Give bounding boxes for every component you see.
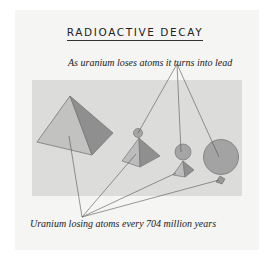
caption-uranium: Uranium losing atoms every 704 million y… — [30, 218, 216, 229]
decay-illustration — [0, 0, 270, 274]
